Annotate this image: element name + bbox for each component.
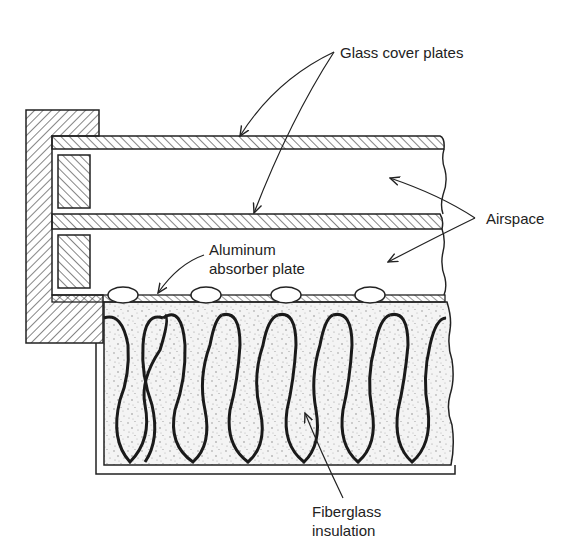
fiberglass-insulation (104, 302, 453, 465)
arrow-glass-upper (240, 52, 334, 136)
tube-2 (191, 287, 221, 303)
tube-3 (271, 287, 301, 303)
spacer-block-lower (58, 235, 90, 288)
spacer-block-upper (58, 155, 90, 208)
label-absorber-line2: absorber plate (209, 260, 305, 277)
label-fiberglass-line2: insulation (312, 522, 375, 539)
tube-1 (108, 287, 138, 303)
label-airspace: Airspace (486, 210, 544, 227)
glass-cover-plate-upper (52, 136, 444, 149)
arrow-absorber (158, 255, 204, 293)
label-absorber-line1: Aluminum (209, 241, 276, 258)
label-glass-cover-plates: Glass cover plates (340, 44, 463, 61)
arrow-airspace-upper (390, 178, 475, 218)
solar-collector-diagram: Glass cover plates Airspace Aluminum abs… (0, 0, 581, 560)
tube-4 (355, 287, 385, 303)
glass-cover-plate-lower (52, 214, 443, 229)
label-fiberglass-line1: Fiberglass (312, 503, 381, 520)
